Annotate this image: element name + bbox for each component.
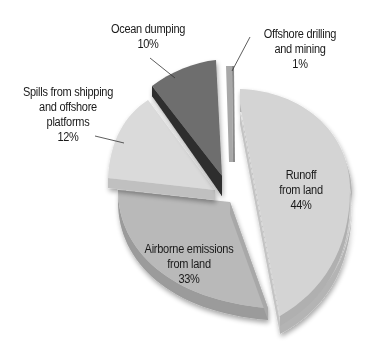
label-airborne-emissions: Airborne emissions from land 33%: [135, 242, 242, 287]
label-offshore-drilling: Offshore drilling and mining 1%: [252, 27, 349, 72]
leader-line-drilling: [232, 37, 250, 71]
leader-line-ocean: [150, 58, 175, 78]
slice-offshore-drilling: [226, 66, 235, 162]
label-runoff-from-land: Runoff from land 44%: [258, 168, 344, 213]
label-ocean-dumping: Ocean dumping 10%: [104, 22, 192, 52]
label-spills-shipping: Spills from shipping and offshore platfo…: [15, 85, 121, 145]
